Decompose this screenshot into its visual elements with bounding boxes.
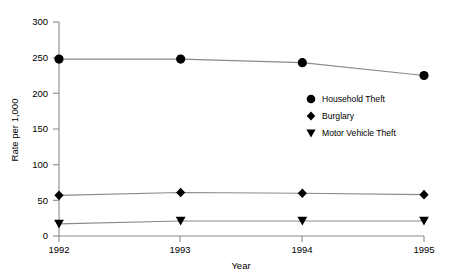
legend-label-1: Burglary <box>322 111 355 121</box>
circle-marker-icon <box>176 54 185 63</box>
circle-marker-icon <box>54 54 63 63</box>
circle-marker-icon <box>307 95 316 104</box>
x-tick-label-1992: 1992 <box>48 244 69 255</box>
circle-marker-icon <box>298 58 307 67</box>
circle-marker-icon <box>419 71 428 80</box>
chart-canvas: 0 50 100 150 200 250 300 1992 1993 1994 … <box>0 0 452 275</box>
y-tick-label-300: 300 <box>32 16 48 27</box>
legend-label-2: Motor Vehicle Theft <box>322 128 396 138</box>
y-tick-label-150: 150 <box>32 123 48 134</box>
y-tick-label-0: 0 <box>43 230 48 241</box>
y-tick-label-50: 50 <box>37 195 48 206</box>
y-axis-title: Rate per 1,000 <box>9 99 20 162</box>
x-tick-label-1995: 1995 <box>413 244 434 255</box>
x-tick-label-1994: 1994 <box>291 244 312 255</box>
y-tick-label-100: 100 <box>32 159 48 170</box>
x-tick-label-1993: 1993 <box>169 244 190 255</box>
legend-label-0: Household Theft <box>322 94 386 104</box>
line-chart: 0 50 100 150 200 250 300 1992 1993 1994 … <box>0 0 452 275</box>
y-tick-label-250: 250 <box>32 52 48 63</box>
y-tick-label-200: 200 <box>32 88 48 99</box>
x-axis-title: Year <box>231 260 250 271</box>
